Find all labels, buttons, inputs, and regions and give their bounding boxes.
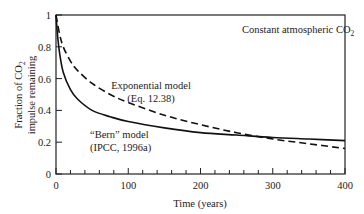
- x-tick-label: 400: [337, 180, 353, 191]
- x-axis-label: Time (years): [173, 198, 227, 210]
- x-tick-label: 300: [265, 180, 281, 191]
- svg-text:Fraction of CO2: Fraction of CO2: [13, 61, 27, 129]
- y-tick-label: 0.6: [38, 74, 51, 85]
- y-tick-label: 0: [46, 169, 51, 180]
- bern-model-label: “Bern” model: [90, 129, 149, 140]
- exponential-model-ref: (Eq. 12.38): [127, 93, 175, 105]
- exponential-model-label: Exponential model: [111, 80, 191, 91]
- svg-text:impulse remaining: impulse remaining: [26, 55, 37, 134]
- y-tick-label: 0.4: [38, 105, 52, 116]
- x-tick-label: 100: [120, 180, 136, 191]
- y-tick-label: 0.8: [38, 42, 51, 53]
- y-tick-label: 1: [46, 10, 51, 21]
- y-tick-label: 0.2: [38, 137, 51, 148]
- x-tick-label: 200: [193, 180, 209, 191]
- chart: 0100200300400 00.20.40.60.81 Constant at…: [0, 0, 364, 214]
- chart-annotation: Constant atmospheric CO2: [242, 24, 355, 38]
- bern-model-ref: (IPCC, 1996a): [90, 142, 152, 154]
- y-axis-label: Fraction of CO2 impulse remaining: [13, 55, 37, 134]
- x-axis-ticks: 0100200300400: [53, 168, 353, 191]
- x-tick-label: 0: [53, 180, 58, 191]
